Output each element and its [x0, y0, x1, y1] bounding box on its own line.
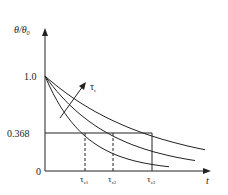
x-axis-label: t [206, 175, 209, 186]
chart: θ/θ0 t 1.0 0.368 0 τc τc1 τc2 τc3 [0, 0, 228, 195]
y-axis-arrow-icon [42, 28, 48, 36]
xtick-tau-c2: τc2 [108, 174, 117, 185]
ytick-0368: 0.368 [7, 128, 30, 139]
curve-tau-c1 [45, 76, 169, 167]
x-axis-arrow-icon [203, 168, 211, 174]
y-axis-label: θ/θ0 [14, 24, 30, 36]
chart-svg: θ/θ0 t 1.0 0.368 0 τc τc1 τc2 τc3 [0, 0, 228, 195]
xtick-tau-c3: τc3 [147, 174, 156, 185]
curve-tau-c2 [45, 76, 195, 161]
increase-arrow-icon [79, 82, 86, 90]
ytick-1: 1.0 [24, 71, 37, 82]
tau-c-annotation: τc [90, 81, 97, 93]
curve-tau-c3 [45, 76, 205, 150]
xtick-tau-c1: τc1 [80, 174, 89, 185]
ytick-0: 0 [36, 166, 41, 177]
